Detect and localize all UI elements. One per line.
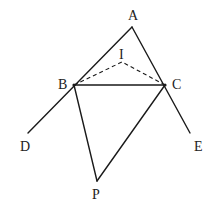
dashed-segment-b-i — [74, 62, 122, 85]
label-e: E — [194, 139, 203, 154]
geometry-diagram: A B C I D E P — [0, 0, 213, 206]
label-a: A — [128, 8, 139, 23]
label-b: B — [58, 77, 67, 92]
point-c-marker — [163, 83, 166, 86]
segment-c-p — [97, 85, 165, 181]
label-p: P — [92, 187, 100, 202]
point-b-marker — [72, 83, 75, 86]
diagram-svg: A B C I D E P — [0, 0, 213, 206]
dashed-segment-c-i — [122, 62, 165, 85]
line-a-d — [28, 27, 132, 133]
label-i: I — [119, 47, 124, 62]
label-d: D — [20, 139, 30, 154]
label-c: C — [172, 77, 181, 92]
segment-b-p — [74, 85, 97, 181]
